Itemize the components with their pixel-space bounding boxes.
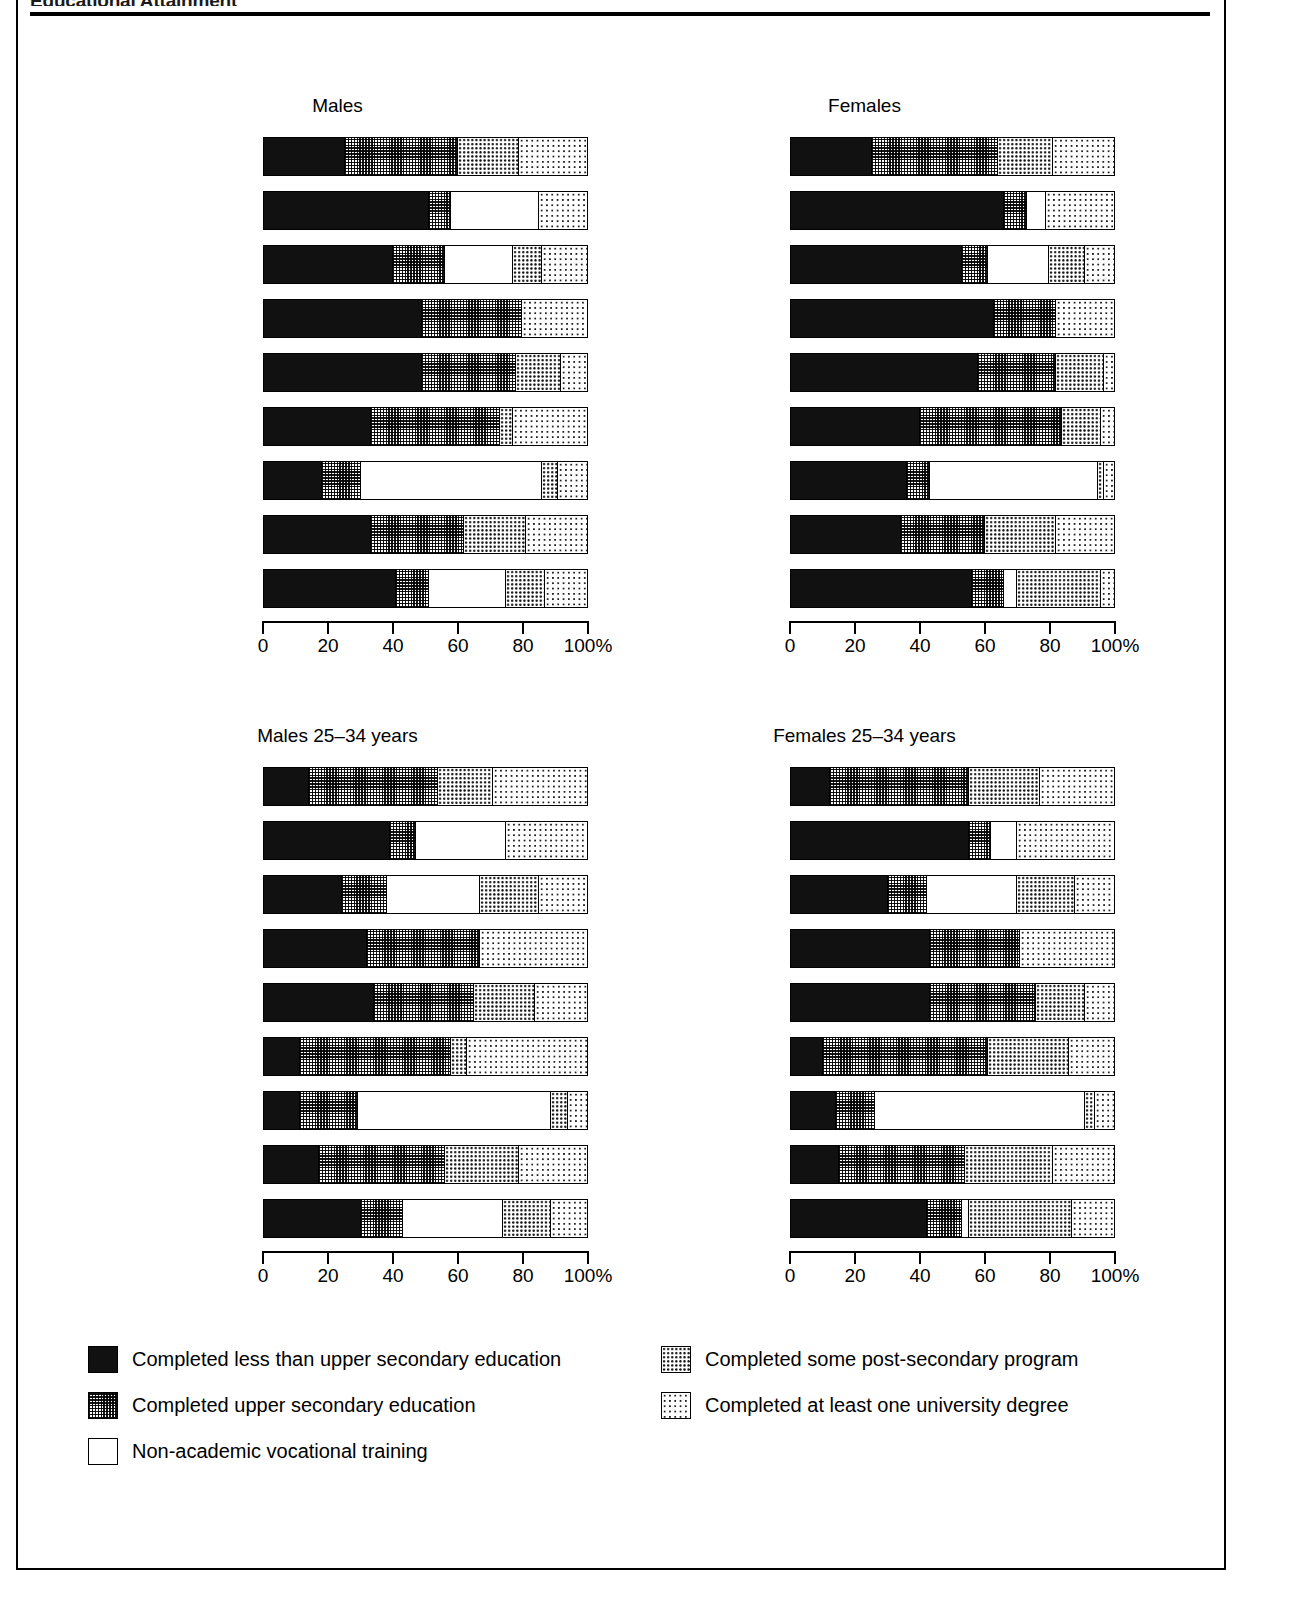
bar-segment — [830, 768, 969, 805]
bar-segment — [387, 876, 481, 913]
stacked-bar — [790, 1145, 1115, 1184]
axis-tick — [984, 1251, 986, 1264]
chart-row: Canada — [614, 507, 1115, 561]
bar-segment — [416, 822, 506, 859]
bar-segment — [927, 1200, 963, 1237]
bar-segment — [422, 354, 516, 391]
bar-segment — [1101, 570, 1114, 607]
page-title: Educational Attainment — [30, 0, 237, 6]
bar-segment — [930, 984, 1037, 1021]
stacked-bar — [790, 137, 1115, 176]
bar-segment — [839, 1146, 965, 1183]
bar-segment — [264, 246, 393, 283]
legend-item-dots[interactable]: Completed some post-secondary program — [661, 1336, 1079, 1382]
axis-tick — [1114, 1251, 1116, 1264]
bar-segment — [1017, 822, 1114, 859]
axis-tick — [327, 1251, 329, 1264]
bar-segment — [403, 1200, 503, 1237]
header-divider — [30, 12, 1210, 16]
chart-row: Netherlands — [87, 345, 588, 399]
bar-segment — [522, 300, 587, 337]
bar-segment — [396, 570, 428, 607]
bar-segment — [319, 1146, 445, 1183]
bar-segment — [985, 516, 1056, 553]
legend-swatch-black-icon — [88, 1346, 118, 1373]
bar-segment — [875, 1092, 1085, 1129]
bar-segment — [962, 246, 988, 283]
bar-segment — [371, 408, 500, 445]
axis-tick-label: 60 — [974, 1265, 995, 1286]
legend-item-white[interactable]: Non-academic vocational training — [88, 1428, 561, 1474]
chart-row: Japan — [614, 399, 1115, 453]
stacked-bar — [790, 191, 1115, 230]
axis-tick-label: 0 — [785, 635, 796, 656]
legend-item-black[interactable]: Completed less than upper secondary educ… — [88, 1336, 561, 1382]
axis-tick-label: 40 — [909, 1265, 930, 1286]
bar-segment — [1085, 1092, 1095, 1129]
bar-segment — [836, 1092, 875, 1129]
stacked-bar — [263, 353, 588, 392]
bar-segment — [1056, 516, 1114, 553]
chart-row: Australia — [614, 561, 1115, 615]
legend-item-checker[interactable]: Completed upper secondary education — [88, 1382, 561, 1428]
x-axis: 020406080100% — [263, 1251, 588, 1287]
bar-segment — [988, 246, 1049, 283]
stacked-bar — [790, 983, 1115, 1022]
bar-segment — [506, 570, 545, 607]
axis-tick — [262, 1251, 264, 1264]
bar-segment — [930, 930, 1020, 967]
legend-item-light[interactable]: Completed at least one university degree — [661, 1382, 1079, 1428]
stacked-bar — [790, 821, 1115, 860]
x-axis: 020406080100% — [790, 621, 1115, 657]
bar-segment — [1062, 408, 1101, 445]
bar-segment — [1017, 876, 1075, 913]
bar-segment — [264, 930, 367, 967]
bar-segment — [998, 138, 1053, 175]
bar-segment — [568, 1092, 587, 1129]
chart-row: Sweden — [87, 237, 588, 291]
bar-segment — [264, 1146, 319, 1183]
bar-segment — [264, 768, 309, 805]
stacked-bar — [263, 299, 588, 338]
bar-segment — [791, 246, 962, 283]
bar-segment — [467, 1038, 587, 1075]
stacked-bar — [790, 515, 1115, 554]
bar-segment — [503, 1200, 551, 1237]
bar-segment — [1017, 570, 1101, 607]
bar-segment — [551, 1092, 567, 1129]
chart-row: Germany — [87, 453, 588, 507]
bar-segment — [872, 138, 998, 175]
bar-segment — [1053, 138, 1114, 175]
axis-tick — [327, 621, 329, 634]
stacked-bar — [263, 983, 588, 1022]
bar-segment — [969, 822, 992, 859]
axis-tick-label: 20 — [317, 1265, 338, 1286]
panel-rows: United StatesUnited KingdomSwedenNorwayN… — [87, 129, 588, 615]
bar-segment — [823, 1038, 988, 1075]
chart-row: United States — [614, 759, 1115, 813]
stacked-bar — [790, 875, 1115, 914]
bar-segment — [888, 876, 927, 913]
axis-tick-label: 0 — [258, 1265, 269, 1286]
bar-segment — [493, 768, 587, 805]
chart-row: Norway — [614, 291, 1115, 345]
bar-segment — [480, 930, 587, 967]
bar-segment — [1085, 246, 1114, 283]
bar-segment — [791, 984, 930, 1021]
chart-row: United Kingdom — [614, 183, 1115, 237]
axis-tick — [1114, 621, 1116, 634]
legend-label: Completed some post-secondary program — [705, 1348, 1079, 1371]
stacked-bar — [790, 569, 1115, 608]
chart-row: Sweden — [87, 867, 588, 921]
bar-segment — [300, 1038, 452, 1075]
axis-tick — [587, 1251, 589, 1264]
bar-segment — [791, 138, 872, 175]
bar-segment — [927, 876, 1017, 913]
bar-segment — [535, 984, 587, 1021]
bar-segment — [1095, 1092, 1114, 1129]
chart-row: Netherlands — [614, 345, 1115, 399]
chart-row: Japan — [87, 399, 588, 453]
bar-segment — [1101, 408, 1114, 445]
axis-tick-label: 100% — [564, 1265, 613, 1286]
chart-row: Japan — [614, 1029, 1115, 1083]
